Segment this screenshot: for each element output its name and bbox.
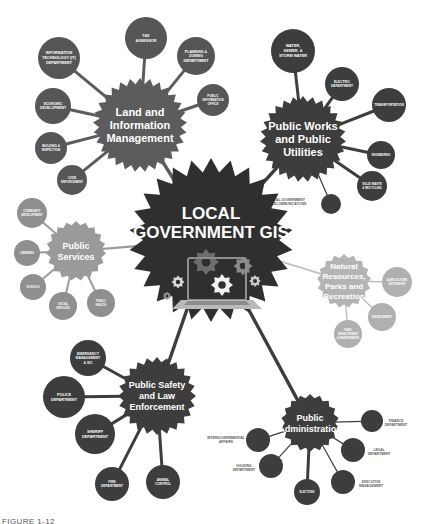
satellite-node[interactable]: TRANSPORTATION: [372, 88, 406, 122]
cluster-public-services[interactable]: PublicServicesCOMMUNITYDEVELOPMENTLIBRAR…: [14, 198, 115, 320]
connector: [42, 222, 56, 235]
satellite-node[interactable]: SOCIALSERVICES: [49, 292, 77, 320]
satellite-label: HOUSINGDEPARTMENT: [233, 464, 256, 473]
connector: [65, 135, 102, 144]
cluster-label: PublicServices: [57, 241, 94, 262]
gear-icon: [234, 257, 253, 276]
satellite-node[interactable]: TAXASSESSOR: [125, 17, 167, 59]
satellite-label: PUBLICHEALTH: [96, 299, 107, 307]
satellite-label: INTERGOVERNMENTALAFFAIRS: [207, 436, 245, 445]
connector: [119, 425, 142, 470]
satellite-node[interactable]: LEGALDEPARTMENT: [341, 438, 390, 462]
satellite-node[interactable]: PUBLICHEALTH: [87, 289, 115, 317]
connector: [346, 304, 347, 322]
satellite-node[interactable]: POLICEDEPARTMENT: [43, 376, 85, 418]
satellite-label: SOCIALSERVICES: [56, 302, 70, 310]
cluster-public-administration[interactable]: PublicAdministrationFINANCEDEPARTMENTLEG…: [207, 394, 407, 505]
satellite-label: COMMUNITYDEVELOPMENT: [21, 209, 43, 217]
connector: [83, 150, 110, 171]
satellite-node[interactable]: EXECUTIVEMANAGEMENT: [331, 470, 383, 494]
satellite-node[interactable]: ENVIRONMENT: [368, 303, 396, 331]
satellite-node[interactable]: COMMUNITYDEVELOPMENT: [17, 198, 47, 228]
satellite-circle[interactable]: [321, 194, 341, 214]
connector: [337, 111, 375, 126]
satellite-node[interactable]: PUBLICINFORMATIONOFFICE: [197, 84, 229, 116]
satellite-node[interactable]: ECONOMICDEVELOPMENT: [35, 88, 71, 124]
satellite-label: INFORMATIONTECHNOLOGY (IT)DEPARTMENT: [42, 51, 76, 65]
cluster-land-and-information-management[interactable]: Land andInformationManagementINFORMATION…: [35, 17, 229, 195]
satellite-node[interactable]: ELECTRICDEPARTMENT: [325, 67, 359, 101]
satellite-label: TRANSPORTATION: [374, 103, 404, 107]
satellite-node[interactable]: WATER,SEWER, &STORM WATER: [271, 29, 315, 73]
satellite-circle[interactable]: [361, 410, 383, 432]
satellite-label: LIBRARIES: [20, 251, 34, 255]
diagram-canvas: Land andInformationManagementINFORMATION…: [0, 0, 423, 524]
connector: [333, 159, 361, 178]
satellite-label: FINANCEDEPARTMENT: [385, 419, 408, 428]
connector: [159, 429, 162, 467]
satellite-label: ANIMALCONTROL: [155, 478, 171, 486]
satellite-circle[interactable]: [331, 470, 355, 494]
gear-icon: [172, 276, 185, 289]
satellite-label: ELECTRICDEPARTMENT: [331, 80, 353, 88]
satellite-node[interactable]: ENGINEERING: [367, 141, 395, 169]
satellite-node[interactable]: INTERGOVERNMENTALAFFAIRS: [207, 428, 270, 452]
gear-icon: [193, 249, 219, 275]
satellite-node[interactable]: BUILDING &INSPECTION: [35, 132, 67, 164]
cluster-natural-resources-parks-and-recreation[interactable]: NaturalResources,Parks andRecreationAGRI…: [317, 254, 412, 348]
satellite-circle[interactable]: [246, 428, 270, 452]
satellite-node[interactable]: SHERIFFDEPARTMENT: [75, 414, 115, 454]
connector: [308, 447, 309, 480]
satellite-circle[interactable]: [341, 438, 365, 462]
satellite-node[interactable]: FIREDEPARTMENT: [95, 467, 129, 501]
gear-icon: [249, 275, 261, 287]
satellite-node[interactable]: FINANCEDEPARTMENT: [361, 410, 407, 432]
satellite-node[interactable]: ELECTIONS: [294, 479, 320, 505]
connector: [74, 70, 110, 100]
satellite-node[interactable]: EMERGENCYMANAGEMENT& 911: [70, 340, 106, 376]
satellite-label: SCHOOLS: [27, 285, 40, 289]
center-node: LOCALGOVERNMENT GIS: [130, 158, 293, 322]
satellite-node[interactable]: PLANNING &ZONINGDEPARTMENT: [177, 37, 215, 75]
satellite-node[interactable]: PARKDEVELOPMENT& MAINTENANCE: [334, 320, 362, 348]
satellite-node[interactable]: CODEENFORCEMENT: [57, 165, 87, 195]
satellite-label: ENVIRONMENT: [372, 315, 392, 319]
gear-icon: [211, 274, 233, 296]
figure-caption: FIGURE 1-12: [2, 517, 55, 524]
satellite-node[interactable]: HOUSINGDEPARTMENT: [233, 454, 283, 478]
satellite-label: EXECUTIVEMANAGEMENT: [359, 480, 383, 489]
satellite-label: BUILDING &INSPECTION: [42, 144, 61, 152]
satellite-label: ELECTIONS: [300, 490, 315, 494]
gear-icon: [163, 292, 171, 300]
connector: [334, 421, 362, 422]
cluster-label: Land andInformationManagement: [106, 106, 174, 144]
satellite-node[interactable]: ANIMALCONTROL: [146, 465, 180, 499]
cluster-public-safety-and-law-enforcement[interactable]: Public Safetyand LawEnforcementEMERGENCY…: [43, 340, 196, 501]
satellite-node[interactable]: AGRICULTUREEXTENSION: [382, 267, 412, 297]
connector: [295, 71, 299, 103]
satellite-node[interactable]: SCHOOLS: [20, 274, 46, 300]
satellite-label: AGRICULTUREEXTENSION: [387, 278, 408, 286]
local-government-gis-diagram: Land andInformationManagementINFORMATION…: [0, 0, 423, 524]
satellite-node[interactable]: INFORMATIONTECHNOLOGY (IT)DEPARTMENT: [38, 37, 80, 79]
connector: [322, 444, 338, 472]
satellite-node[interactable]: LIBRARIES: [14, 240, 40, 266]
satellite-node[interactable]: SOLID WASTE& RECYCLING: [357, 171, 387, 201]
satellite-circle[interactable]: [259, 454, 283, 478]
cluster-public-works-and-public-utilities[interactable]: Public Worksand PublicUtilitiesWATER,SEW…: [260, 29, 406, 214]
satellite-label: SOLID WASTE& RECYCLING: [362, 182, 382, 190]
connector: [143, 57, 145, 85]
satellite-label: LEGALDEPARTMENT: [368, 448, 391, 457]
satellite-label: ENGINEERING: [372, 153, 391, 157]
